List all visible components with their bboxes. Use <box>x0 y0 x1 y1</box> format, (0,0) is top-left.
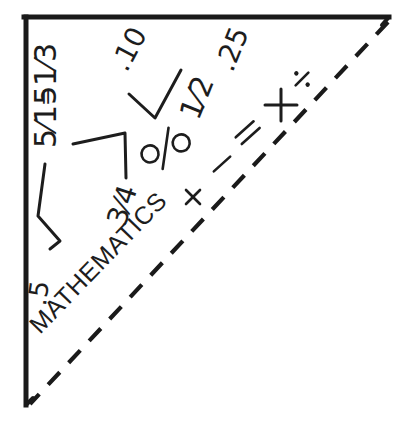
division-dot-bottom <box>305 82 311 88</box>
division-dot-top <box>293 70 299 76</box>
symbol-percent-sign <box>136 123 195 173</box>
mathematics-triangle-figure: 5⁄15 = 1⁄3 .10 .25 1⁄2 <box>0 0 411 423</box>
symbol-decimal-twenty-five: .25 <box>208 22 255 76</box>
symbol-minus-sign <box>214 157 230 172</box>
decimal-twentyfive-text: .25 <box>208 22 255 76</box>
equals-text: = <box>33 88 58 106</box>
wordmark-mathematics-text: MATHEMATICS <box>23 186 172 338</box>
symbol-plus-sign <box>265 89 297 121</box>
wordmark-mathematics: MATHEMATICS <box>23 186 172 338</box>
symbol-fraction-one-half: 1⁄2 <box>172 71 221 124</box>
percent-lower-circle <box>171 132 192 153</box>
symbol-decimal-ten: .10 <box>104 22 154 77</box>
minus-bar <box>214 157 230 172</box>
symbol-equals-sign <box>236 121 260 144</box>
symbol-division-sign <box>288 65 315 92</box>
fraction-one-half-text: 1⁄2 <box>172 71 221 124</box>
decimal-ten-text: .10 <box>104 22 154 77</box>
triangle-solid-border <box>24 17 389 405</box>
radical-large-bar <box>73 133 126 178</box>
symbol-fraction-five-fifteenths-equals-one-third: 5⁄15 = 1⁄3 <box>28 43 63 148</box>
fraction-1-3-text: 1⁄3 <box>28 43 63 86</box>
symbol-multiplication-sign <box>186 190 200 204</box>
radical-large-stroke <box>38 164 60 249</box>
percent-upper-circle <box>139 143 160 164</box>
figure-canvas: 5⁄15 = 1⁄3 .10 .25 1⁄2 <box>0 0 411 423</box>
